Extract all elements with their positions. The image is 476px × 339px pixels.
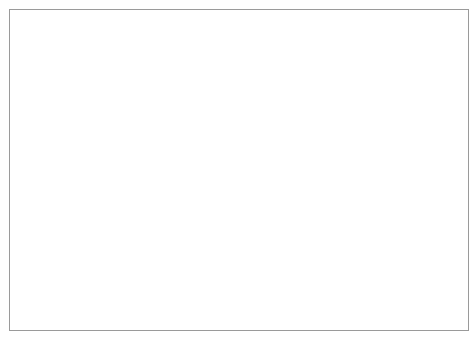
lipid-phase-diagram: [0, 0, 476, 339]
